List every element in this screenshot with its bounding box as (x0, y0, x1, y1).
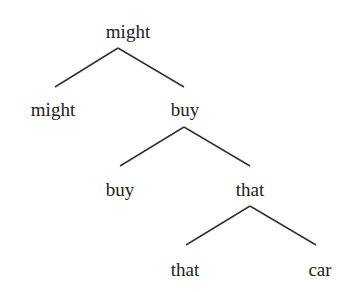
edge-buy-buy (120, 127, 184, 166)
edge-might-might (55, 48, 118, 87)
node-buy-phrase: buy (171, 100, 200, 119)
edge-that-that (186, 206, 250, 245)
edge-might-buy (118, 48, 184, 87)
node-car: car (308, 260, 331, 279)
tree-edges (0, 0, 354, 292)
node-might: might (31, 100, 75, 119)
node-that: that (171, 260, 200, 279)
node-buy: buy (106, 180, 135, 199)
node-that-phrase: that (236, 180, 265, 199)
edge-buy-that (184, 127, 250, 166)
node-root-might: might (106, 22, 150, 41)
edge-that-car (250, 206, 316, 245)
